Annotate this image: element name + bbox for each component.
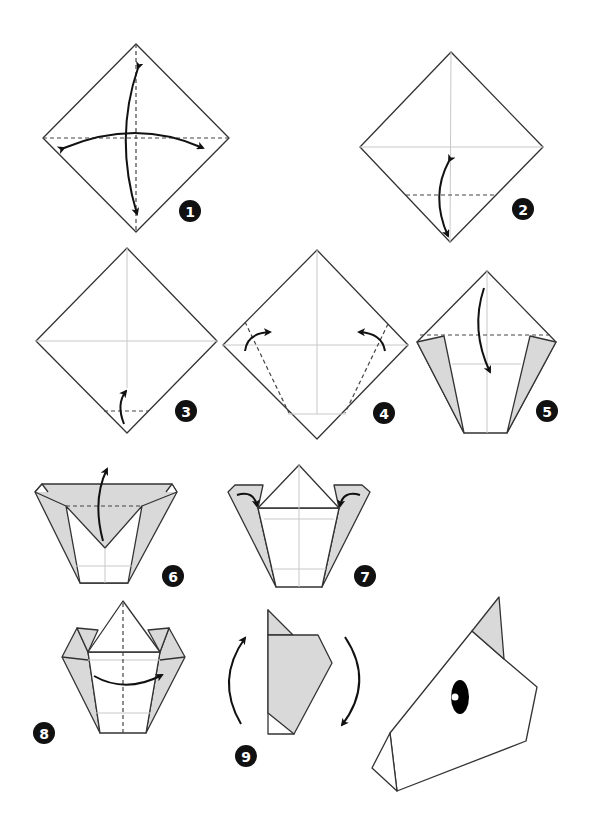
origami-diagram: 1 2 3 4 [0, 0, 591, 831]
step-badge: 2 [512, 198, 534, 220]
step-1: 1 [43, 44, 229, 232]
step-2: 2 [360, 52, 543, 242]
step-9: 9 [229, 610, 359, 767]
step-badge: 8 [33, 722, 55, 744]
step-badge: 7 [354, 565, 376, 587]
step-badge: 5 [536, 400, 558, 422]
svg-text:4: 4 [379, 406, 389, 422]
step-badge: 9 [235, 745, 257, 767]
svg-text:6: 6 [168, 569, 178, 585]
step-badge: 4 [373, 402, 395, 424]
svg-text:3: 3 [181, 404, 191, 420]
finished-horse-head [372, 597, 537, 791]
step-badge: 6 [162, 565, 184, 587]
ear-flap [268, 610, 293, 635]
svg-text:9: 9 [241, 749, 251, 765]
rotate-arrow-icon [229, 638, 245, 724]
step-7: 7 [228, 465, 376, 587]
folded-body [268, 635, 332, 734]
top-triangle [88, 601, 160, 652]
step-badge: 3 [175, 400, 197, 422]
svg-text:5: 5 [542, 404, 552, 420]
step-badge: 1 [179, 200, 201, 222]
step-8: 8 [33, 601, 185, 744]
step-3: 3 [36, 248, 217, 433]
step-4: 4 [223, 250, 408, 439]
rotate-arrow-icon [342, 637, 359, 725]
svg-text:1: 1 [185, 204, 195, 220]
svg-text:7: 7 [360, 569, 370, 585]
eye-highlight [452, 694, 459, 701]
svg-text:8: 8 [39, 726, 49, 742]
step-6: 6 [35, 469, 184, 587]
svg-text:2: 2 [518, 202, 528, 218]
step-5: 5 [417, 271, 558, 433]
